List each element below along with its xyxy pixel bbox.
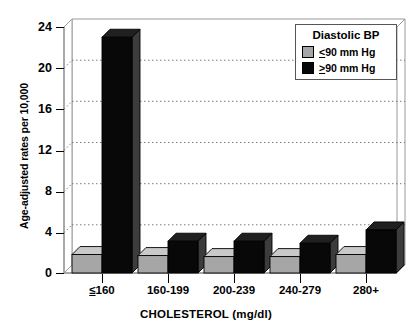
legend-label-high: >90 mm Hg [319, 62, 375, 74]
bar-side-face [330, 235, 338, 273]
bar-front-face [72, 255, 102, 273]
bar-high-240279 [300, 235, 338, 273]
bar-side-face [234, 249, 242, 273]
y-tick-mark-0 [56, 273, 64, 274]
legend-text-high: 90 mm Hg [325, 62, 375, 74]
y-tick-mark-12 [56, 151, 64, 152]
bar-top-face [270, 249, 308, 257]
bar-high-200239 [234, 233, 272, 273]
legend-swatch-low [302, 46, 314, 58]
legend-title: Diastolic BP [302, 29, 390, 41]
y-tick-0: 0 [26, 267, 52, 280]
bar-front-face [234, 241, 264, 273]
x-tick-mark-3 [300, 274, 301, 283]
y-tick-mark-24 [56, 27, 64, 28]
bar-high-280 [366, 222, 404, 273]
y-tick-20: 20 [26, 62, 52, 75]
bar-front-face [336, 255, 366, 273]
bar-top-face [234, 233, 272, 241]
bar-top-face [102, 29, 140, 37]
bar-top-face [204, 249, 242, 257]
x-tick-mark-0 [102, 274, 103, 283]
bar-side-face [198, 233, 206, 273]
bar-low-160199 [138, 248, 176, 273]
x-tick-mark-4 [366, 274, 367, 283]
legend-item-above-90[interactable]: >90 mm Hg [302, 62, 390, 74]
bar-top-face [72, 247, 110, 255]
bar-front-face [270, 257, 300, 273]
y-tick-label-0: 0 [26, 267, 52, 280]
y-tick-mark-16 [56, 109, 64, 110]
y-tick-label-8: 8 [26, 185, 52, 198]
bar-top-face [300, 235, 338, 243]
bar-top-face [138, 248, 176, 256]
bar-side-face [396, 222, 404, 273]
bar-front-face [300, 243, 330, 273]
y-tick-label-24: 24 [26, 21, 52, 34]
y-tick-mark-20 [56, 68, 64, 69]
x-tick-label-280plus: 280+ [323, 284, 409, 296]
legend-label-low: <90 mm Hg [319, 46, 375, 58]
legend-swatch-high [302, 62, 314, 74]
bar-front-face [204, 257, 234, 273]
y-tick-label-12: 12 [26, 144, 52, 157]
bar-side-face [102, 247, 110, 273]
bar-top-face [168, 233, 206, 241]
bar-low-160 [72, 247, 110, 273]
bar-side-face [264, 233, 272, 273]
chart-legend: Diastolic BP <90 mm Hg >90 mm Hg [295, 24, 397, 80]
bar-top-face [366, 222, 404, 230]
bar-chart: Age-adjusted rates per 10,000 24 20 16 1… [0, 0, 412, 332]
legend-item-below-90[interactable]: <90 mm Hg [302, 46, 390, 58]
y-tick-4: 4 [26, 226, 52, 239]
x-tick-mark-2 [234, 274, 235, 283]
bar-low-240279 [270, 249, 308, 273]
y-tick-12: 12 [26, 144, 52, 157]
bar-low-280 [336, 247, 374, 273]
bar-top-face [336, 247, 374, 255]
bar-front-face [138, 256, 168, 273]
bar-side-face [168, 248, 176, 273]
y-tick-8: 8 [26, 185, 52, 198]
x-axis-title: CHOLESTEROL (mg/dl) [0, 308, 412, 320]
y-tick-label-16: 16 [26, 103, 52, 116]
legend-text-low: 90 mm Hg [325, 46, 375, 58]
bar-side-face [132, 29, 140, 273]
bar-front-face [102, 37, 132, 273]
x-tick-label-lt160-value: 160 [96, 284, 115, 296]
bar-high-160 [102, 29, 140, 273]
y-tick-label-4: 4 [26, 226, 52, 239]
bar-low-200239 [204, 249, 242, 273]
bar-side-face [366, 247, 374, 273]
y-tick-mark-4 [56, 233, 64, 234]
bar-side-face [300, 249, 308, 273]
y-tick-label-20: 20 [26, 62, 52, 75]
y-tick-16: 16 [26, 103, 52, 116]
x-tick-mark-1 [168, 274, 169, 283]
bar-high-160199 [168, 233, 206, 273]
bar-front-face [168, 241, 198, 273]
y-tick-mark-8 [56, 192, 64, 193]
bar-front-face [366, 230, 396, 273]
y-tick-24: 24 [26, 21, 52, 34]
